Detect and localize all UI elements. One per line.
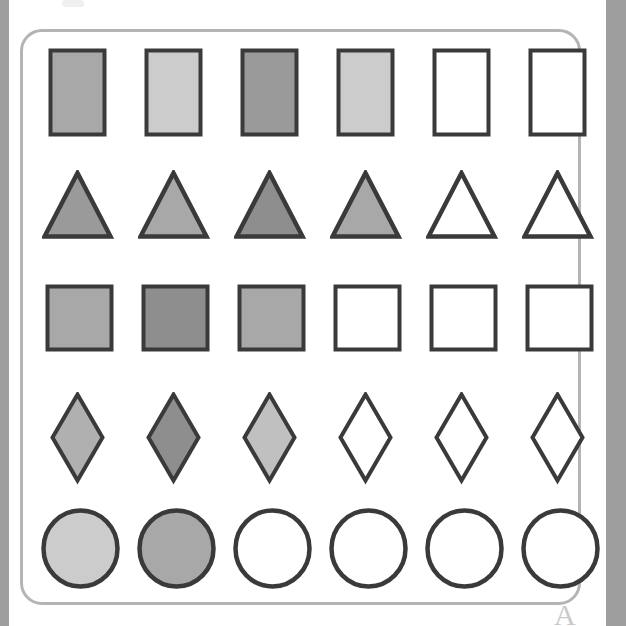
rectangle-4-light-gray[interactable] xyxy=(336,48,398,140)
square-6-white[interactable] xyxy=(525,284,597,355)
triangle-1-medium-dark-gray[interactable] xyxy=(42,170,116,242)
triangle-svg xyxy=(330,170,404,242)
diamond-svg xyxy=(146,392,204,486)
diamond-2-dark-gray[interactable] xyxy=(146,392,204,486)
circle-glyph xyxy=(140,511,214,587)
diamond-1-medium-gray[interactable] xyxy=(50,392,108,486)
diamond-glyph xyxy=(341,395,391,481)
diamond-svg xyxy=(434,392,492,486)
circle-3-white[interactable] xyxy=(233,508,315,592)
diamond-svg xyxy=(338,392,396,486)
circle-svg xyxy=(137,508,219,592)
triangle-svg xyxy=(138,170,212,242)
circle-2-medium-gray[interactable] xyxy=(137,508,219,592)
rectangle-5-white[interactable] xyxy=(432,48,494,140)
rectangle-glyph xyxy=(243,51,297,135)
circle-glyph xyxy=(428,511,502,587)
circle-6-white[interactable] xyxy=(521,508,603,592)
circle-svg xyxy=(329,508,411,592)
diamond-5-white[interactable] xyxy=(434,392,492,486)
diamond-glyph xyxy=(53,395,103,481)
square-glyph xyxy=(144,287,208,350)
triangle-svg xyxy=(234,170,308,242)
diamond-6-white[interactable] xyxy=(530,392,588,486)
diamond-3-medium-light-gray[interactable] xyxy=(242,392,300,486)
square-4-white[interactable] xyxy=(333,284,405,355)
rectangle-glyph xyxy=(51,51,105,135)
rectangle-glyph xyxy=(531,51,585,135)
rectangle-svg xyxy=(432,48,494,140)
diamond-4-white[interactable] xyxy=(338,392,396,486)
square-svg xyxy=(429,284,501,355)
worksheet-page: A xyxy=(0,0,626,626)
triangle-svg xyxy=(42,170,116,242)
triangle-svg xyxy=(426,170,500,242)
square-glyph xyxy=(528,287,592,350)
triangle-2-medium-gray[interactable] xyxy=(138,170,212,242)
square-glyph xyxy=(432,287,496,350)
rectangle-svg xyxy=(240,48,302,140)
square-svg xyxy=(45,284,117,355)
square-glyph xyxy=(240,287,304,350)
triangle-svg xyxy=(522,170,596,242)
triangle-glyph xyxy=(141,173,207,237)
rectangle-glyph xyxy=(339,51,393,135)
triangle-glyph xyxy=(429,173,495,237)
square-3-medium-gray[interactable] xyxy=(237,284,309,355)
triangle-6-white[interactable] xyxy=(522,170,596,242)
triangle-glyph xyxy=(45,173,111,237)
triangle-glyph xyxy=(333,173,399,237)
diamond-glyph xyxy=(437,395,487,481)
square-glyph xyxy=(336,287,400,350)
rectangle-svg xyxy=(144,48,206,140)
rectangle-svg xyxy=(336,48,398,140)
circle-5-white[interactable] xyxy=(425,508,507,592)
rectangle-svg xyxy=(528,48,590,140)
cutoff-letter-glyph: A xyxy=(554,600,584,626)
triangle-glyph xyxy=(525,173,591,237)
diamond-glyph xyxy=(245,395,295,481)
rectangle-6-white[interactable] xyxy=(528,48,590,140)
diamond-svg xyxy=(242,392,300,486)
square-svg xyxy=(333,284,405,355)
diamond-glyph xyxy=(149,395,199,481)
rectangle-1-medium-gray[interactable] xyxy=(48,48,110,140)
square-glyph xyxy=(48,287,112,350)
rectangle-2-light-gray[interactable] xyxy=(144,48,206,140)
rectangle-svg xyxy=(48,48,110,140)
triangle-glyph xyxy=(237,173,303,237)
triangle-4-medium-gray[interactable] xyxy=(330,170,404,242)
square-5-white[interactable] xyxy=(429,284,501,355)
circle-1-light-gray[interactable] xyxy=(41,508,123,592)
diamond-svg xyxy=(530,392,588,486)
square-svg xyxy=(237,284,309,355)
rectangle-3-medium-dark-gray[interactable] xyxy=(240,48,302,140)
rectangle-glyph xyxy=(147,51,201,135)
square-1-medium-gray[interactable] xyxy=(45,284,117,355)
circle-glyph xyxy=(332,511,406,587)
circle-glyph xyxy=(44,511,118,587)
circle-svg xyxy=(233,508,315,592)
circle-svg xyxy=(41,508,123,592)
triangle-5-white[interactable] xyxy=(426,170,500,242)
circle-4-white[interactable] xyxy=(329,508,411,592)
circle-glyph xyxy=(236,511,310,587)
square-svg xyxy=(525,284,597,355)
diamond-glyph xyxy=(533,395,583,481)
circle-svg xyxy=(521,508,603,592)
triangle-3-dark-gray[interactable] xyxy=(234,170,308,242)
circle-svg xyxy=(425,508,507,592)
rectangle-glyph xyxy=(435,51,489,135)
square-svg xyxy=(141,284,213,355)
diamond-svg xyxy=(50,392,108,486)
square-2-dark-gray[interactable] xyxy=(141,284,213,355)
circle-glyph xyxy=(524,511,598,587)
shape-grid xyxy=(0,0,626,626)
